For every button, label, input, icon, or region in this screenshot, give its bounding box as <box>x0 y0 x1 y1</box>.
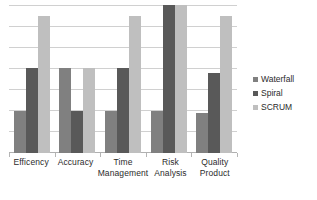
bar-spiral-time-management[interactable] <box>117 68 129 153</box>
bar-scrum-time-management[interactable] <box>129 16 141 153</box>
x-axis-tick <box>237 153 238 157</box>
chart-legend: WaterfallSpiralSCRUM <box>253 72 311 114</box>
x-axis-label-time-management: TimeManagement <box>98 157 149 178</box>
x-axis-label-line: Efficency <box>9 157 53 168</box>
bar-group <box>55 5 101 153</box>
bar-scrum-risk-analysis[interactable] <box>175 5 187 153</box>
legend-item-waterfall[interactable]: Waterfall <box>253 72 311 86</box>
bar-waterfall-accuracy[interactable] <box>59 68 71 153</box>
bar-group <box>191 5 237 153</box>
x-axis-label-line: Accuracy <box>53 157 97 168</box>
bar-spiral-accuracy[interactable] <box>71 111 83 153</box>
x-axis-label-line: Management <box>98 168 149 179</box>
x-axis-label-risk-analysis: Risk Analysis <box>148 157 192 178</box>
x-axis-label-line: Quality <box>193 157 237 168</box>
bar-scrum-quality-product[interactable] <box>220 16 232 153</box>
x-axis-label-line: Risk Analysis <box>148 157 192 178</box>
bar-waterfall-quality-product[interactable] <box>196 113 208 153</box>
plot-area <box>9 5 237 153</box>
bar-group <box>9 5 55 153</box>
bar-group <box>100 5 146 153</box>
bar-scrum-accuracy[interactable] <box>83 68 95 153</box>
bar-group <box>146 5 192 153</box>
legend-item-label: SCRUM <box>261 102 292 112</box>
bar-spiral-quality-product[interactable] <box>208 73 220 153</box>
x-axis-label-efficency: Efficency <box>9 157 53 178</box>
x-axis-label-quality-product: QualityProduct <box>193 157 237 178</box>
bar-series-layer <box>9 5 237 153</box>
x-axis-labels: EfficencyAccuracyTimeManagementRisk Anal… <box>9 157 237 178</box>
legend-item-label: Waterfall <box>261 74 294 84</box>
bar-waterfall-time-management[interactable] <box>105 111 117 153</box>
legend-item-label: Spiral <box>261 88 283 98</box>
bar-spiral-risk-analysis[interactable] <box>163 5 175 153</box>
x-axis-label-accuracy: Accuracy <box>53 157 97 178</box>
square-swatch-icon <box>253 105 258 110</box>
bar-waterfall-efficency[interactable] <box>14 111 26 153</box>
x-axis-label-line: Time <box>98 157 149 168</box>
square-swatch-icon <box>253 77 258 82</box>
bar-scrum-efficency[interactable] <box>38 16 50 153</box>
square-swatch-icon <box>253 91 258 96</box>
bar-spiral-efficency[interactable] <box>26 68 38 153</box>
legend-item-scrum[interactable]: SCRUM <box>253 100 311 114</box>
legend-item-spiral[interactable]: Spiral <box>253 86 311 100</box>
bar-chart: EfficencyAccuracyTimeManagementRisk Anal… <box>0 0 317 200</box>
bar-waterfall-risk-analysis[interactable] <box>151 111 163 153</box>
x-axis-label-line: Product <box>193 168 237 179</box>
